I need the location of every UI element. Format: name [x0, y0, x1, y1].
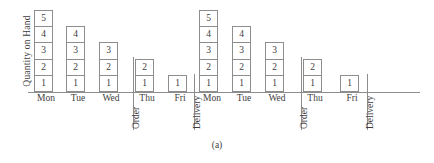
- day-label-cycle1-thu: Thu: [130, 93, 164, 104]
- unit-box: 1: [199, 75, 218, 92]
- day-label-cycle2-thu: Thu: [298, 93, 332, 104]
- unit-box: 2: [232, 59, 251, 76]
- unit-box: 4: [66, 26, 85, 43]
- unit-box: 2: [66, 59, 85, 76]
- inventory-sawtooth-figure: Quantity on Hand 5 4 3 2 1 4 3 2 1 3 2 1…: [0, 0, 434, 163]
- unit-stack: 5 4 3 2 1: [199, 11, 218, 92]
- unit-stack: 1: [168, 76, 187, 92]
- unit-box: 1: [340, 75, 359, 92]
- unit-box: 2: [135, 59, 154, 76]
- y-axis-label: Quantity on Hand: [22, 4, 32, 98]
- unit-box: 3: [199, 42, 218, 59]
- unit-box: 1: [135, 75, 154, 92]
- unit-box: 1: [232, 75, 251, 92]
- unit-box: 2: [99, 59, 118, 76]
- figure-caption: (a): [0, 140, 434, 150]
- day-label-cycle1-wed: Wed: [94, 93, 128, 104]
- unit-box: 3: [34, 42, 53, 59]
- unit-box: 3: [99, 42, 118, 59]
- unit-box: 1: [265, 75, 284, 92]
- unit-stack: 2 1: [135, 60, 154, 92]
- delivery-label-cycle2: Delivery: [365, 96, 375, 129]
- unit-box: 3: [232, 42, 251, 59]
- unit-box: 2: [265, 59, 284, 76]
- day-label-cycle2-tue: Tue: [227, 93, 261, 104]
- unit-stack: 5 4 3 2 1: [34, 11, 53, 92]
- day-label-cycle1-mon: Mon: [29, 93, 63, 104]
- unit-box: 1: [303, 75, 322, 92]
- unit-box: 1: [168, 75, 187, 92]
- unit-stack: 3 2 1: [99, 43, 118, 92]
- unit-box: 3: [66, 42, 85, 59]
- unit-stack: 2 1: [303, 60, 322, 92]
- unit-stack: 4 3 2 1: [66, 27, 85, 92]
- unit-stack: 4 3 2 1: [232, 27, 251, 92]
- day-label-cycle2-mon: Mon: [195, 93, 229, 104]
- unit-box: 4: [199, 26, 218, 43]
- unit-box: 2: [199, 59, 218, 76]
- unit-stack: 1: [340, 76, 359, 92]
- unit-box: 4: [232, 26, 251, 43]
- day-label-cycle2-fri: Fri: [335, 93, 369, 104]
- unit-box: 2: [34, 59, 53, 76]
- day-label-cycle1-tue: Tue: [61, 93, 95, 104]
- unit-box: 4: [34, 26, 53, 43]
- unit-box: 1: [99, 75, 118, 92]
- unit-box: 1: [66, 75, 85, 92]
- unit-box: 5: [199, 10, 218, 27]
- unit-box: 3: [265, 42, 284, 59]
- unit-stack: 3 2 1: [265, 43, 284, 92]
- day-label-cycle2-wed: Wed: [260, 93, 294, 104]
- order-label-cycle1: Order: [131, 107, 141, 129]
- unit-box: 1: [34, 75, 53, 92]
- order-label-cycle2: Order: [299, 107, 309, 129]
- unit-box: 5: [34, 10, 53, 27]
- unit-box: 2: [303, 59, 322, 76]
